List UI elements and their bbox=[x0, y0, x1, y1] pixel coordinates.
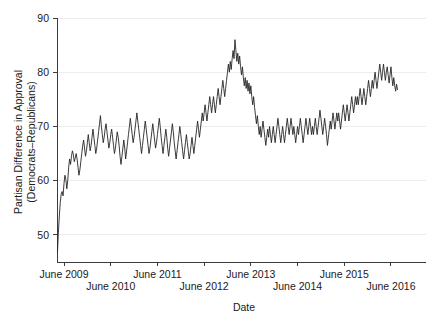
data-series bbox=[57, 40, 397, 253]
y-tick-label: 50 bbox=[37, 229, 49, 241]
x-tick-label: June 2010 bbox=[86, 280, 135, 292]
x-axis-ticks: June 2009June 2010June 2011June 2012June… bbox=[39, 262, 415, 292]
partisan-approval-chart: 5060708090 June 2009June 2010June 2011Ju… bbox=[0, 0, 440, 322]
x-tick-label: June 2013 bbox=[226, 268, 275, 280]
y-axis-title-line1: Partisan Difference in Approval bbox=[12, 70, 24, 214]
y-axis-ticks: 5060708090 bbox=[37, 12, 57, 241]
x-tick-label: June 2012 bbox=[180, 280, 229, 292]
y-tick-label: 80 bbox=[37, 66, 49, 78]
axis-lines bbox=[57, 18, 426, 262]
x-tick-label: June 2016 bbox=[366, 280, 415, 292]
y-tick-label: 90 bbox=[37, 12, 49, 24]
gridlines bbox=[57, 18, 426, 235]
y-tick-label: 60 bbox=[37, 174, 49, 186]
x-tick-label: June 2015 bbox=[320, 268, 369, 280]
x-tick-label: June 2014 bbox=[273, 280, 322, 292]
x-tick-label: June 2011 bbox=[133, 268, 181, 280]
chart-canvas: 5060708090 June 2009June 2010June 2011Ju… bbox=[0, 0, 440, 322]
y-axis-title: Partisan Difference in Approval (Democra… bbox=[12, 70, 37, 214]
y-axis-title-line2: (Democrats–Republicans) bbox=[25, 81, 37, 202]
y-tick-label: 70 bbox=[37, 120, 49, 132]
x-axis-title: Date bbox=[233, 301, 255, 313]
x-tick-label: June 2009 bbox=[39, 268, 88, 280]
series-line bbox=[57, 40, 397, 253]
